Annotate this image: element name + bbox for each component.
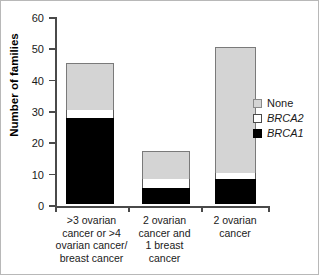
y-axis-line <box>55 17 57 207</box>
category-label-2-line-4: cancer <box>118 252 211 265</box>
bar-group-1 <box>66 63 114 204</box>
bar-segment-none-3 <box>215 47 256 172</box>
legend-label-brca1: BRCA1 <box>267 127 304 139</box>
x-tick-mark-2 <box>201 206 203 212</box>
legend-label-none: None <box>267 97 293 109</box>
y-tick-label-20: 20 <box>4 138 44 149</box>
x-tick-mark-right <box>268 206 270 212</box>
y-tick-label-60: 60 <box>4 13 44 24</box>
legend-item-brca2: BRCA2 <box>253 111 304 125</box>
legend-swatch-brca1-icon <box>253 129 262 138</box>
bar-segment-brca1-1 <box>66 118 114 204</box>
y-tick-label-40: 40 <box>4 76 44 87</box>
category-label-3-line-2: cancer <box>191 227 279 240</box>
y-tick-label-30: 30 <box>4 107 44 118</box>
x-tick-mark-1 <box>128 206 130 212</box>
bar-segment-brca2-1 <box>66 110 114 118</box>
legend-swatch-none-icon <box>253 99 262 108</box>
x-axis-line <box>55 206 269 208</box>
category-label-3-line-1: 2 ovarian <box>191 214 279 227</box>
bar-group-3 <box>215 47 256 204</box>
chart-legend: None BRCA2 BRCA1 <box>253 96 304 141</box>
y-tick-label-10: 10 <box>4 170 44 181</box>
bar-segment-brca1-3 <box>215 179 256 204</box>
category-label-3: 2 ovarian cancer <box>191 214 279 239</box>
legend-swatch-brca2-icon <box>253 114 262 123</box>
category-label-2-line-3: 1 breast <box>118 239 211 252</box>
bar-segment-none-2 <box>142 151 190 179</box>
legend-item-brca1: BRCA1 <box>253 126 304 140</box>
bar-segment-brca2-2 <box>142 179 190 188</box>
bar-group-2 <box>142 151 190 204</box>
bar-segment-none-1 <box>66 63 114 110</box>
bar-segment-brca1-2 <box>142 188 190 204</box>
x-tick-mark-left <box>55 206 57 212</box>
legend-item-none: None <box>253 96 304 110</box>
legend-label-brca2: BRCA2 <box>267 112 304 124</box>
chart-figure: Number of families 60 50 40 30 20 10 0 >… <box>0 0 319 275</box>
y-tick-label-0: 0 <box>4 201 44 212</box>
y-tick-label-50: 50 <box>4 44 44 55</box>
